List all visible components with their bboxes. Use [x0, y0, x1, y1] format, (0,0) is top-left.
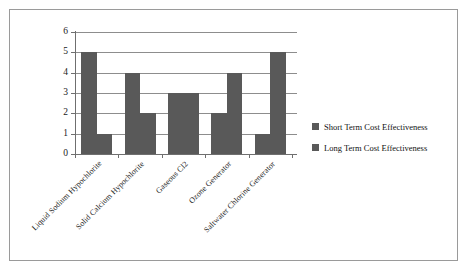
bar: [227, 73, 243, 154]
bar: [184, 93, 200, 154]
y-axis-tick-label: 3: [48, 88, 68, 98]
y-axis-tick-label: 6: [48, 27, 68, 37]
bar: [140, 113, 156, 154]
bar: [270, 52, 286, 154]
x-axis-tick: [205, 154, 206, 158]
legend-swatch-icon: [312, 123, 319, 130]
bar: [255, 134, 271, 154]
axis-baseline: [75, 154, 297, 155]
chart-legend: Short Term Cost EffectivenessLong Term C…: [312, 118, 457, 160]
plot-area: [75, 32, 292, 154]
legend-item-label: Long Term Cost Effectiveness: [324, 143, 427, 153]
x-axis-category-label: Saltwater Chlorine Generator: [202, 159, 277, 234]
x-axis-category-label: Liquid Sodium Hypochlorite: [30, 159, 104, 233]
x-axis-category-label: Ozone Generator: [187, 159, 233, 205]
x-axis-tick: [118, 154, 119, 158]
chart-page: 6543210 Liquid Sodium HypochloriteSolid …: [0, 0, 469, 272]
bar: [81, 52, 97, 154]
x-axis-tick: [292, 154, 293, 158]
x-axis-tick: [75, 154, 76, 158]
legend-item[interactable]: Long Term Cost Effectiveness: [312, 139, 457, 156]
legend-item-label: Short Term Cost Effectiveness: [324, 122, 428, 132]
y-axis-tick-label: 5: [48, 47, 68, 57]
x-axis-tick: [249, 154, 250, 158]
bar: [168, 93, 184, 154]
bar: [97, 134, 113, 154]
bar: [125, 73, 141, 154]
legend-item[interactable]: Short Term Cost Effectiveness: [312, 118, 457, 135]
bar: [211, 113, 227, 154]
bar-chart: 6543210 Liquid Sodium HypochloriteSolid …: [0, 0, 469, 272]
y-axis-tick-label: 2: [48, 108, 68, 118]
y-axis-tick-label: 0: [48, 149, 68, 159]
x-axis-tick: [162, 154, 163, 158]
y-axis-tick-label: 1: [48, 129, 68, 139]
legend-swatch-icon: [312, 144, 319, 151]
x-axis-category-label: Gaseous Cl2: [154, 159, 190, 195]
y-axis-tick-label: 4: [48, 68, 68, 78]
